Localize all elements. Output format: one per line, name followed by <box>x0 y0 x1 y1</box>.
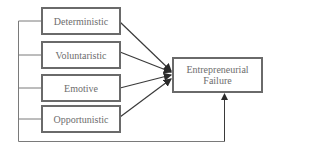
factor-box-deterministic: Deterministic <box>41 7 121 35</box>
factor-label: Deterministic <box>54 16 108 27</box>
factor-label: Opportunistic <box>54 114 109 125</box>
factor-arrows <box>120 22 171 117</box>
factor-box-opportunistic: Opportunistic <box>41 105 121 133</box>
factor-label: Emotive <box>64 83 98 94</box>
factor-box-emotive: Emotive <box>41 74 121 102</box>
outcome-box-entrepreneurial-failure: Entrepreneurial Failure <box>172 57 263 93</box>
factor-box-voluntaristic: Voluntaristic <box>41 41 121 69</box>
factor-label: Voluntaristic <box>56 50 107 61</box>
outcome-label: Entrepreneurial Failure <box>180 64 255 86</box>
